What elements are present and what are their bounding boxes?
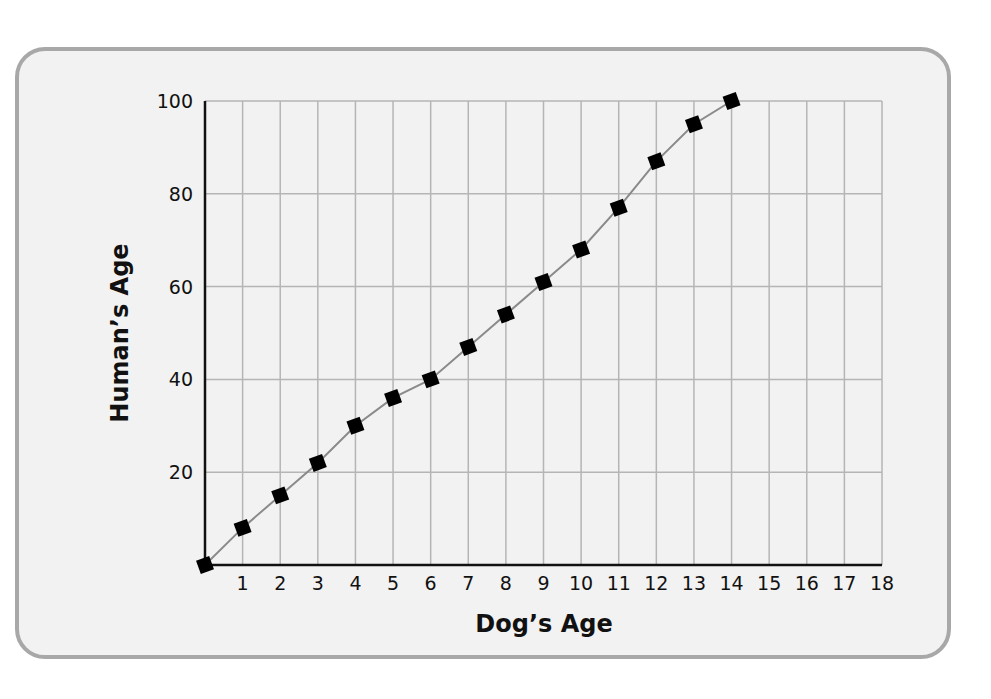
line-chart: 123456789101112131415161718 20406080100 …: [0, 0, 991, 699]
x-tick-label: 5: [387, 572, 399, 594]
x-tick-label: 16: [795, 572, 819, 594]
y-tick-labels: 20406080100: [157, 90, 193, 483]
x-tick-label: 7: [462, 572, 474, 594]
x-axis-title: Dog’s Age: [475, 610, 612, 638]
x-tick-label: 6: [425, 572, 437, 594]
x-tick-label: 12: [644, 572, 668, 594]
y-tick-label: 80: [169, 183, 193, 205]
x-tick-label: 3: [312, 572, 324, 594]
x-tick-label: 9: [537, 572, 549, 594]
x-tick-label: 17: [832, 572, 856, 594]
y-tick-label: 20: [169, 461, 193, 483]
x-tick-label: 11: [607, 572, 631, 594]
data-point-marker: [384, 389, 402, 407]
x-tick-label: 14: [719, 572, 743, 594]
x-tick-label: 4: [349, 572, 361, 594]
x-tick-label: 2: [274, 572, 286, 594]
y-tick-label: 60: [169, 276, 193, 298]
data-point-marker: [723, 92, 741, 110]
x-tick-label: 8: [500, 572, 512, 594]
x-tick-label: 15: [757, 572, 781, 594]
y-tick-label: 40: [169, 368, 193, 390]
y-axis-title: Human’s Age: [106, 243, 134, 422]
x-tick-label: 13: [682, 572, 706, 594]
y-tick-label: 100: [157, 90, 193, 112]
x-tick-label: 18: [870, 572, 894, 594]
x-tick-label: 10: [569, 572, 593, 594]
x-tick-labels: 123456789101112131415161718: [237, 572, 895, 594]
grid-lines: [205, 101, 882, 565]
x-tick-label: 1: [237, 572, 249, 594]
